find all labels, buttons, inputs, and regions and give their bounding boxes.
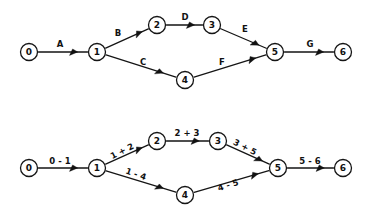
edge-label: 5 - 6 [299,156,320,166]
edge-label: 2 + 3 [175,128,200,138]
node-m2: 2 [149,133,166,150]
edge-f-45: 4 - 5 [194,171,269,193]
edge-f-01: 0 - 1 [39,156,88,171]
node-m5: 5 [270,160,287,177]
edge-label: F [219,57,225,67]
node-m6: 6 [335,160,352,177]
arrow-head-icon [251,172,258,179]
node-label: 4 [182,75,188,85]
edge-e-g: G [285,39,334,55]
node-label: 5 [275,163,281,173]
diagram-canvas: ABCDEFG01234560 - 11 + 22 + 33 + 51 - 44… [0,0,366,215]
edge-label: E [242,24,248,34]
edge-label: 4 - 5 [216,177,239,193]
event-numbered-network: 0 - 11 + 22 + 33 + 51 - 44 - 55 - 601234… [21,128,352,204]
node-m0: 0 [21,160,38,177]
edge-e-b: B [106,28,149,48]
node-label: 4 [182,190,188,200]
node-n3: 3 [204,17,221,34]
node-m3: 3 [210,133,227,150]
edge-f-14: 1 - 4 [106,166,176,192]
node-label: 1 [94,47,100,57]
edge-f-23: 2 + 3 [167,128,209,144]
node-n4: 4 [177,72,194,89]
edge-label: G [307,39,314,49]
node-label: 2 [154,20,160,30]
edge-f-35: 3 + 5 [227,137,270,164]
arrow-head-icon [254,156,263,161]
node-label: 6 [340,163,346,173]
network-diagrams-figure: ABCDEFG01234560 - 11 + 22 + 33 + 51 - 44… [0,0,366,215]
edge-label: 3 + 5 [232,137,259,157]
node-n5: 5 [267,44,284,61]
node-label: 0 [26,47,32,57]
node-m1: 1 [89,160,106,177]
node-label: 0 [26,163,32,173]
edge-label: 0 - 1 [49,156,70,166]
node-label: 3 [209,20,215,30]
arrow-head-icon [250,40,259,45]
edge-f-56: 5 - 6 [288,156,334,171]
node-label: 5 [272,47,278,57]
edge-label: D [181,12,188,22]
edge-label: C [140,57,146,67]
node-n2: 2 [149,17,166,34]
node-n6: 6 [335,44,352,61]
arrow-head-icon [136,31,142,38]
edge-label: 1 + 2 [109,141,136,161]
node-label: 6 [340,47,346,57]
arrow-head-icon [136,147,142,154]
edge-e-f: F [194,55,266,77]
edge-e-c: C [106,55,176,77]
activity-labelled-network: ABCDEFG0123456 [21,12,352,89]
node-label: 3 [215,136,221,146]
edge-label: B [115,28,121,38]
edge-e-a: A [39,39,88,55]
edge-e-e: E [221,24,267,48]
edge-label: A [57,39,64,49]
node-label: 1 [94,163,100,173]
arrow-head-icon [249,57,256,64]
node-n0: 0 [21,44,38,61]
edge-f-12: 1 + 2 [106,141,149,164]
node-n1: 1 [89,44,106,61]
edge-e-d: D [167,12,203,28]
node-m4: 4 [177,187,194,204]
node-label: 2 [154,136,160,146]
